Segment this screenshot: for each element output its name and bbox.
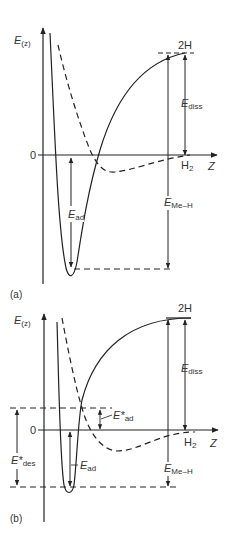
e-diss-label: Ediss (181, 362, 203, 376)
metal-hydrogen-curve (50, 33, 185, 276)
y-axis-label: E(z) (14, 34, 31, 48)
zero-label: 0 (30, 149, 36, 161)
y-axis-label: E(z) (14, 314, 31, 328)
z-axis-label: Z (207, 160, 216, 172)
panel-b-label: (b) (10, 513, 22, 524)
2h-label: 2H (178, 302, 192, 314)
zero-label: 0 (30, 424, 36, 436)
2h-label: 2H (178, 39, 192, 51)
z-axis-label: Z (209, 437, 218, 449)
e-diss-label: Ediss (181, 97, 203, 111)
h2-molecule-curve (58, 45, 190, 172)
e-ad-label: Ead (80, 459, 96, 473)
h2-label: H2 (184, 436, 197, 450)
panel-b: E(z) 0 Z 2H Ediss H2 EMe–H Ead E*ad (8, 302, 218, 524)
panel-a-label: (a) (10, 289, 22, 300)
panel-a: E(z) 0 Z 2H Ediss H2 EMe–H Ead (a) (10, 28, 217, 300)
h2-label: H2 (181, 159, 194, 173)
e-star-ad-leader (101, 415, 112, 419)
potential-energy-diagram: E(z) 0 Z 2H Ediss H2 EMe–H Ead (a) E(z) (0, 0, 232, 538)
e-star-ad-label: E*ad (113, 409, 134, 423)
h2-molecule-curve (62, 318, 195, 451)
